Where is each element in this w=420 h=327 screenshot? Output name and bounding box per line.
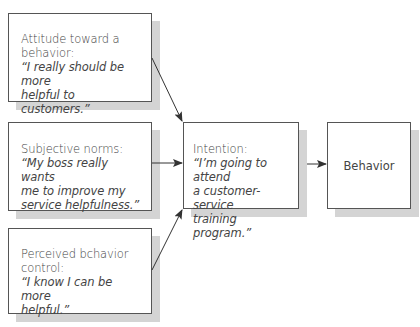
behavior-label: Behavior: [328, 159, 410, 173]
norms-quote-1: “My boss really wants: [21, 156, 145, 184]
arrow-attitude-to-intention: [152, 58, 182, 121]
control-label-1: Perceived bchavior: [21, 247, 145, 261]
control-quote-1: “I know I can be more: [21, 275, 145, 303]
norms-quote-2: me to improve my: [21, 184, 145, 198]
intention-box: Intention: “I’m going to attend a custom…: [183, 122, 299, 209]
attitude-quote-2: helpful to customers.”: [21, 88, 145, 116]
perceived-control-box: Perceived bchavior control: “I know I ca…: [8, 228, 152, 314]
intention-quote-1: “I’m going to attend: [193, 156, 296, 184]
control-label-2: control:: [21, 261, 145, 275]
attitude-label-1: Attitude toward a: [21, 32, 145, 46]
attitude-box: Attitude toward a behavior: “I really sh…: [8, 13, 152, 102]
norms-label: Subjective norms:: [21, 142, 145, 156]
intention-quote-2: a customer-service: [193, 184, 296, 212]
behavior-box: Behavior: [327, 122, 411, 209]
control-quote-2: helpful.”: [21, 303, 145, 317]
attitude-label-2: behavior:: [21, 46, 145, 60]
attitude-quote-1: “I really should be more: [21, 60, 145, 88]
intention-label: Intention:: [193, 142, 296, 156]
subjective-norms-box: Subjective norms: “My boss really wants …: [8, 122, 152, 211]
intention-quote-3: training program.”: [193, 212, 296, 240]
arrow-control-to-intention: [152, 210, 182, 270]
norms-quote-3: service helpfulness.”: [21, 198, 145, 212]
